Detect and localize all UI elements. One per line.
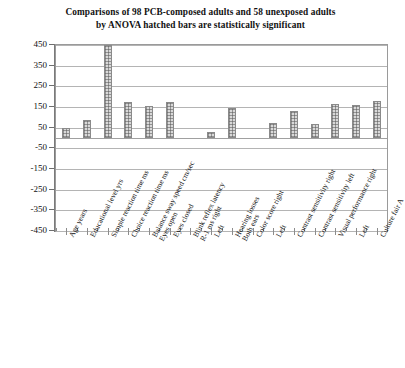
bar xyxy=(373,101,381,138)
y-tick-mark xyxy=(49,106,54,107)
bar-column xyxy=(222,45,243,231)
y-tick-mark xyxy=(49,127,54,128)
y-tick-mark xyxy=(49,168,54,169)
y-axis: 45035025015050-50-150-250-350-450 xyxy=(0,44,55,232)
x-minor-tick xyxy=(56,228,57,231)
bar xyxy=(228,108,236,138)
y-tick-label: -250 xyxy=(31,184,48,193)
y-tick-mark xyxy=(49,65,54,66)
x-minor-tick xyxy=(128,228,129,231)
bar xyxy=(269,123,277,139)
x-minor-tick xyxy=(315,228,316,231)
y-tick-label: -50 xyxy=(35,143,47,152)
x-minor-tick xyxy=(273,228,274,231)
x-minor-tick xyxy=(356,228,357,231)
x-minor-tick xyxy=(149,228,150,231)
y-tick-mark xyxy=(49,209,54,210)
y-tick-mark xyxy=(49,230,54,231)
bar-column xyxy=(284,45,305,231)
bar-column xyxy=(366,45,387,231)
bar xyxy=(62,128,70,138)
bar xyxy=(311,124,319,138)
y-tick-label: -150 xyxy=(31,164,48,173)
x-minor-tick xyxy=(335,228,336,231)
x-minor-tick xyxy=(294,228,295,231)
y-tick-label: 150 xyxy=(34,102,48,111)
x-axis-labels: Age yearsEducational level yrsSimple rea… xyxy=(55,233,388,366)
x-minor-tick xyxy=(108,228,109,231)
bar-column xyxy=(56,45,77,231)
x-minor-tick xyxy=(377,228,378,231)
x-minor-tick xyxy=(87,228,88,231)
bar xyxy=(352,105,360,138)
y-tick-mark xyxy=(49,44,54,45)
y-tick-label: -350 xyxy=(31,205,48,214)
y-tick-mark xyxy=(49,147,54,148)
y-tick-label: 50 xyxy=(38,122,47,131)
y-tick-label: 350 xyxy=(34,60,48,69)
bar xyxy=(124,102,132,138)
y-tick-label: 450 xyxy=(34,40,48,49)
chart-title: Comparisons of 98 PCB-composed adults an… xyxy=(0,6,401,31)
chart-title-line-2: by ANOVA hatched bars are statistically … xyxy=(0,19,401,32)
y-tick-mark xyxy=(49,85,54,86)
x-minor-tick xyxy=(232,228,233,231)
bar xyxy=(83,120,91,138)
bar xyxy=(166,102,174,138)
bar xyxy=(145,106,153,138)
bar xyxy=(331,104,339,138)
x-minor-tick xyxy=(190,228,191,231)
bar xyxy=(290,111,298,138)
bar xyxy=(104,45,112,138)
chart-title-line-1: Comparisons of 98 PCB-composed adults an… xyxy=(0,6,401,19)
y-tick-label: 250 xyxy=(34,81,48,90)
bar xyxy=(207,132,215,138)
y-tick-label: -450 xyxy=(31,226,48,235)
bar-column xyxy=(77,45,98,231)
x-minor-tick xyxy=(66,228,67,231)
y-tick-mark xyxy=(49,189,54,190)
